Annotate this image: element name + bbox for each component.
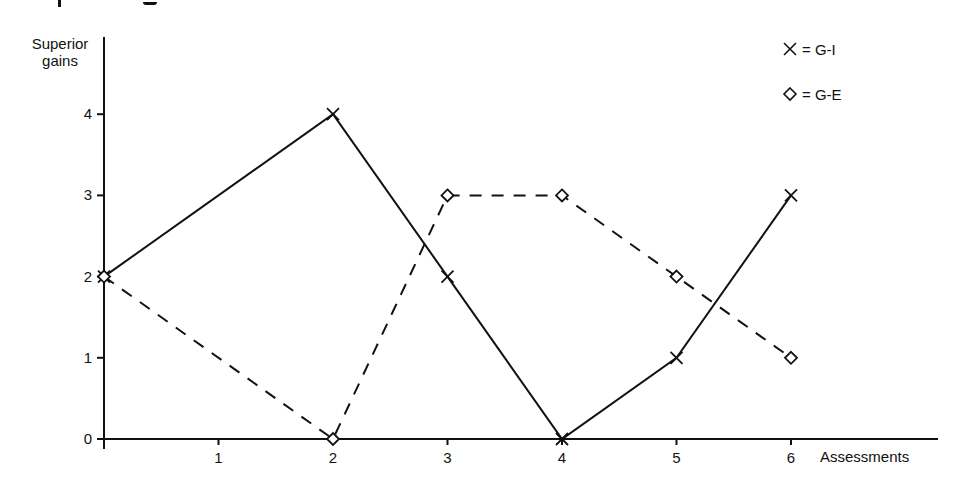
- x-tick-label: 2: [329, 449, 337, 466]
- legend-label-ge: = G-E: [802, 86, 842, 103]
- x-marker-icon: [442, 271, 454, 283]
- x-tick-label: 3: [443, 449, 451, 466]
- x-marker-icon: [785, 189, 797, 201]
- y-tick-label: 3: [84, 186, 92, 203]
- legend-label-gi: = G-I: [802, 41, 836, 58]
- y-tick-label: 4: [84, 105, 92, 122]
- legend: = G-I = G-E: [784, 41, 842, 103]
- series-layer: [98, 108, 797, 445]
- diamond-marker-icon: [442, 189, 454, 201]
- x-tick-label: 1: [214, 449, 222, 466]
- x-marker-icon: [327, 108, 339, 120]
- line-chart: 01234123456 = G-I = G-E Assessments: [0, 0, 965, 496]
- y-tick-label: 0: [84, 430, 92, 447]
- x-tick-label: 6: [787, 449, 795, 466]
- diamond-marker-icon: [785, 352, 797, 364]
- y-tick-label: 1: [84, 349, 92, 366]
- x-axis-label: Assessments: [820, 448, 909, 465]
- x-marker-icon: [671, 352, 683, 364]
- legend-x-marker-icon: [784, 43, 796, 55]
- series-line-g-e: [104, 195, 791, 439]
- legend-diamond-marker-icon: [784, 88, 796, 100]
- y-tick-label: 2: [84, 268, 92, 285]
- x-tick-label: 4: [558, 449, 566, 466]
- x-tick-label: 5: [672, 449, 680, 466]
